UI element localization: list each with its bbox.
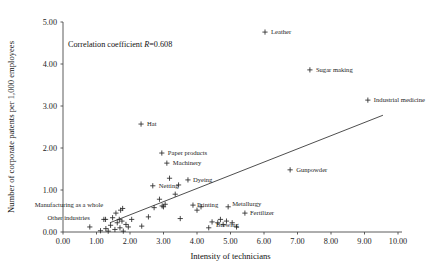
x-tick-label: 8.00: [324, 237, 338, 246]
y-axis-title: Number of corporate patents per 1,000 em…: [6, 40, 16, 213]
data-point-marker: [117, 225, 122, 230]
point-labels: LeatherSugar makingIndustrial medicineHa…: [35, 28, 425, 228]
x-tick-label: 10.00: [389, 237, 407, 246]
data-point-marker-labeled: [242, 211, 247, 216]
x-tick-label: 6.00: [257, 237, 271, 246]
data-point-marker: [112, 227, 117, 232]
y-tick-label: 4.00: [43, 60, 57, 69]
data-point-marker: [106, 229, 111, 234]
data-point-marker: [123, 222, 128, 227]
data-point-label: Leather: [271, 28, 292, 35]
data-point-marker-labeled: [159, 150, 164, 155]
y-tick-label: 0.00: [43, 228, 57, 237]
chart-canvas: 0.001.002.003.004.005.006.007.008.009.00…: [0, 0, 447, 278]
x-tick-label: 4.00: [190, 237, 204, 246]
data-point-marker: [121, 229, 126, 234]
scatter-chart: 0.001.002.003.004.005.006.007.008.009.00…: [0, 0, 447, 278]
x-tick-label: 9.00: [357, 237, 371, 246]
data-point-marker-labeled: [209, 219, 214, 224]
data-point-marker: [98, 228, 103, 233]
correlation-annotation: Correlation coefficient R=0.608: [68, 40, 172, 49]
data-point-marker-labeled: [365, 98, 370, 103]
data-point-label: Netting: [159, 182, 179, 189]
data-point-marker-labeled: [190, 203, 195, 208]
x-tick-label: 0.00: [56, 237, 70, 246]
data-point-label: Gunpowder: [296, 166, 328, 173]
data-point-label: Sugar making: [316, 66, 354, 73]
data-point-label: Brewing: [216, 221, 239, 228]
data-point-marker: [146, 214, 151, 219]
data-point-label: Hat: [147, 120, 157, 127]
data-point-marker-labeled: [226, 204, 231, 209]
data-point-label: Dyeing: [193, 176, 213, 183]
data-point-label: Manufacturing as a whole: [35, 201, 104, 208]
data-point-label: Other industries: [48, 214, 91, 221]
data-point-label: Metallurgy: [232, 200, 262, 207]
data-point-marker: [103, 226, 108, 231]
data-point-marker: [108, 223, 113, 228]
data-point-marker: [110, 215, 115, 220]
data-point-marker-labeled: [288, 167, 293, 172]
y-tick-label: 2.00: [43, 144, 57, 153]
data-point-marker-labeled: [150, 183, 155, 188]
data-point-marker: [129, 217, 134, 222]
data-point-marker: [126, 224, 131, 229]
x-tick-label: 7.00: [290, 237, 304, 246]
data-point-label: Paper products: [168, 149, 208, 156]
data-point-marker-labeled: [138, 121, 143, 126]
data-point-marker-labeled: [185, 177, 190, 182]
data-point-marker: [139, 224, 144, 229]
data-point-label: Machinery: [173, 159, 202, 166]
data-point-marker: [178, 216, 183, 221]
data-point-marker: [194, 208, 199, 213]
x-tick-labels: 0.001.002.003.004.005.006.007.008.009.00…: [56, 232, 407, 246]
data-point-marker: [113, 211, 118, 216]
correlation-coefficient-text: Correlation coefficient R=0.608: [68, 40, 172, 49]
data-point-marker: [206, 225, 211, 230]
data-point-marker: [87, 224, 92, 229]
data-point-marker-labeled: [164, 161, 169, 166]
data-point-marker: [167, 176, 172, 181]
data-point-marker: [157, 197, 162, 202]
y-tick-label: 5.00: [43, 18, 57, 27]
x-axis-title: Intensity of technicians: [190, 251, 271, 261]
data-point-label: Printing: [197, 201, 219, 208]
data-point-marker-labeled: [307, 67, 312, 72]
data-point-label: Fertilizer: [250, 209, 275, 216]
data-point-label: Industrial medicine: [374, 96, 425, 103]
x-tick-label: 5.00: [223, 237, 237, 246]
data-points: [87, 29, 370, 233]
x-tick-label: 1.00: [89, 237, 103, 246]
y-tick-label: 3.00: [43, 102, 57, 111]
y-tick-label: 1.00: [43, 186, 57, 195]
x-tick-label: 3.00: [156, 237, 170, 246]
x-tick-label: 2.00: [123, 237, 137, 246]
data-point-marker-labeled: [262, 29, 267, 34]
